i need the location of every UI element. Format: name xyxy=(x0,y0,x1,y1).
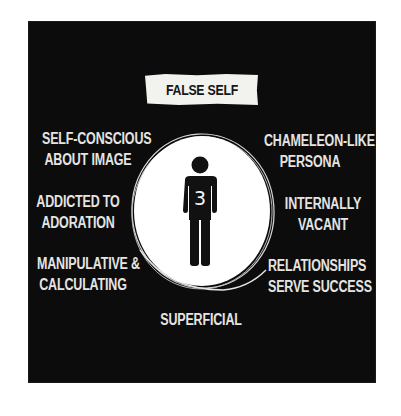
trait-line: VACANT xyxy=(277,214,369,235)
trait-internally-vacant: INTERNALLY VACANT xyxy=(264,193,382,235)
trait-line: ADORATION xyxy=(32,212,124,233)
trait-line: ABOUT IMAGE xyxy=(42,149,134,170)
trait-line: INTERNALLY xyxy=(277,193,369,214)
diagram-title: FALSE SELF xyxy=(165,81,237,98)
trait-line: ADDICTED TO xyxy=(32,191,124,212)
trait-line: PERSONA xyxy=(264,151,356,172)
trait-line: SUPERFICIAL xyxy=(155,309,247,330)
trait-superficial: SUPERFICIAL xyxy=(142,309,260,330)
trait-chameleon-like: CHAMELEON-LIKE PERSONA xyxy=(251,130,369,172)
trait-self-conscious: SELF-CONSCIOUS ABOUT IMAGE xyxy=(29,128,147,170)
trait-line: SELF-CONSCIOUS xyxy=(42,128,134,149)
trait-line: MANIPULATIVE & xyxy=(37,253,129,274)
trait-line: SERVE SUCCESS xyxy=(268,276,360,297)
title-badge: FALSE SELF xyxy=(145,74,258,105)
trait-relationships-serve-success: RELATIONSHIPS SERVE SUCCESS xyxy=(255,255,373,297)
type-number: 3 xyxy=(194,187,206,209)
trait-addicted-to-adoration: ADDICTED TO ADORATION xyxy=(19,191,137,233)
trait-line: RELATIONSHIPS xyxy=(268,255,360,276)
trait-line: CALCULATING xyxy=(37,274,129,295)
trait-line: CHAMELEON-LIKE xyxy=(264,130,356,151)
trait-manipulative: MANIPULATIVE & CALCULATING xyxy=(24,253,142,295)
